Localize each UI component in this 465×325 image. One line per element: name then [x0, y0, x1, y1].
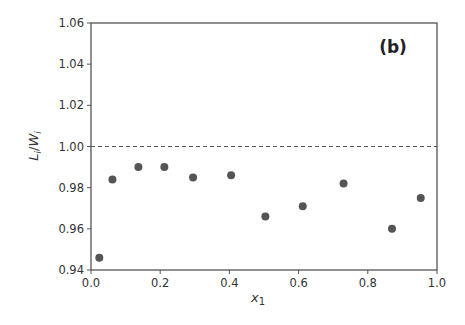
data-point: [134, 163, 142, 171]
x-tick-label: 0.6: [289, 276, 307, 290]
data-point: [108, 175, 116, 183]
scatter-chart: 0.940.960.981.001.021.041.060.00.20.40.6…: [0, 0, 465, 325]
y-tick-label: 0.96: [58, 222, 84, 236]
y-tick-label: 1.00: [58, 140, 84, 154]
y-tick-label: 1.02: [58, 98, 84, 112]
y-tick-label: 1.06: [58, 16, 84, 30]
y-tick-label: 0.94: [58, 263, 84, 277]
x-axis-label: x1: [250, 290, 265, 307]
data-point: [160, 163, 168, 171]
data-point: [95, 254, 103, 262]
data-point: [388, 225, 396, 233]
x-tick-label: 1.0: [428, 276, 446, 290]
x-tick-label: 0.8: [359, 276, 377, 290]
x-tick-label: 0.4: [220, 276, 238, 290]
panel-label: (b): [379, 37, 407, 57]
y-tick-label: 0.98: [58, 181, 84, 195]
data-point: [340, 180, 348, 188]
data-point: [261, 212, 269, 220]
y-axis-label: Li/Wi: [26, 131, 43, 161]
x-tick-label: 0.2: [151, 276, 169, 290]
y-tick-label: 1.04: [58, 57, 84, 71]
x-tick-label: 0.0: [82, 276, 100, 290]
data-point: [189, 173, 197, 181]
data-point: [417, 194, 425, 202]
plot-area: 0.940.960.981.001.021.041.060.00.20.40.6…: [58, 16, 446, 290]
data-point: [227, 171, 235, 179]
data-point: [299, 202, 307, 210]
